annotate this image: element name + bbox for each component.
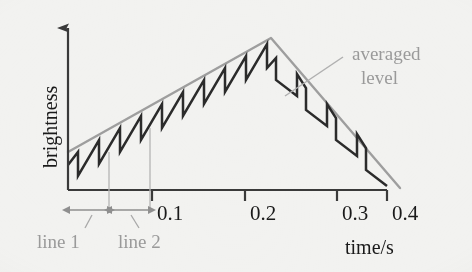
x-tick-label-0-2: 0.2 xyxy=(250,203,276,224)
span-label-line-1: line 1 xyxy=(37,232,80,251)
averaged-level-curve xyxy=(68,38,400,188)
span-label-leaders xyxy=(85,215,139,228)
averaged-level-annotation-line-1: averaged xyxy=(352,44,421,63)
x-axis-ticks xyxy=(152,190,387,201)
brightness-signal-curve xyxy=(68,44,387,186)
span-label-line-2: line 2 xyxy=(118,232,161,251)
x-axis-title: time/s xyxy=(345,237,394,257)
averaged-level-annotation-line-2: level xyxy=(361,68,398,87)
y-axis-title: brightness xyxy=(40,86,60,168)
x-tick-label-0-1: 0.1 xyxy=(157,203,183,224)
x-tick-label-0-4: 0.4 xyxy=(392,203,418,224)
span-guide-lines xyxy=(109,128,150,208)
brightness-vs-time-figure: brightness 0.1 0.2 0.3 0.4 time/s averag… xyxy=(0,0,472,272)
x-axis xyxy=(68,190,387,201)
x-tick-label-0-3: 0.3 xyxy=(342,203,368,224)
